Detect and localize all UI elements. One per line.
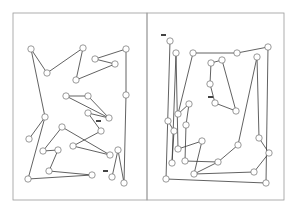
node xyxy=(28,46,34,52)
node xyxy=(186,101,192,107)
node xyxy=(73,77,79,83)
node xyxy=(199,138,205,144)
edge xyxy=(266,47,268,183)
node xyxy=(165,118,171,124)
edge xyxy=(49,171,92,175)
edge xyxy=(238,57,257,145)
node xyxy=(256,135,262,141)
node xyxy=(234,50,240,56)
edge xyxy=(185,125,186,161)
node xyxy=(106,115,112,121)
node xyxy=(70,143,76,149)
node xyxy=(25,176,31,182)
node xyxy=(219,57,225,63)
node xyxy=(42,114,48,120)
edge xyxy=(185,161,218,162)
panel-left xyxy=(13,13,147,200)
node xyxy=(215,159,221,165)
node xyxy=(167,38,173,44)
edge xyxy=(118,150,124,183)
node xyxy=(175,146,181,152)
edge xyxy=(222,60,236,111)
annotation-mark xyxy=(96,120,101,122)
edge xyxy=(73,131,101,146)
node xyxy=(265,44,271,50)
edge xyxy=(95,49,126,59)
node xyxy=(40,148,46,154)
node xyxy=(169,160,175,166)
node xyxy=(208,60,214,66)
edge xyxy=(194,172,254,174)
node xyxy=(44,70,50,76)
edge xyxy=(176,53,178,149)
node xyxy=(89,172,95,178)
node xyxy=(233,108,239,114)
annotation-mark xyxy=(103,170,108,172)
panel-frame xyxy=(13,13,147,200)
node xyxy=(123,92,129,98)
edge xyxy=(166,41,170,179)
node xyxy=(98,128,104,134)
node xyxy=(115,147,121,153)
node xyxy=(182,158,188,164)
edge xyxy=(166,179,266,183)
edge xyxy=(29,117,45,139)
node xyxy=(163,176,169,182)
node xyxy=(266,150,272,156)
node xyxy=(109,174,115,180)
node xyxy=(80,45,86,51)
edge xyxy=(88,96,109,118)
node xyxy=(26,136,32,142)
edge xyxy=(28,175,92,179)
node xyxy=(173,50,179,56)
edge xyxy=(218,145,238,162)
node xyxy=(112,61,118,67)
edge xyxy=(47,48,83,73)
node xyxy=(183,122,189,128)
node xyxy=(85,110,91,116)
node xyxy=(212,100,218,106)
panel-right xyxy=(147,13,284,200)
node xyxy=(235,142,241,148)
node xyxy=(121,180,127,186)
edge xyxy=(254,153,269,172)
node xyxy=(92,56,98,62)
edge xyxy=(76,64,115,80)
node xyxy=(63,93,69,99)
node xyxy=(207,81,213,87)
node xyxy=(55,147,61,153)
edge xyxy=(178,141,202,149)
node xyxy=(123,46,129,52)
node xyxy=(107,152,113,158)
node xyxy=(85,93,91,99)
node xyxy=(191,171,197,177)
graph-diagram xyxy=(0,0,294,220)
edge xyxy=(194,162,218,174)
node xyxy=(263,180,269,186)
node xyxy=(251,169,257,175)
node xyxy=(175,111,181,117)
annotation-mark xyxy=(208,96,213,98)
edge xyxy=(76,48,83,80)
node xyxy=(171,128,177,134)
edge xyxy=(194,141,202,174)
edge xyxy=(257,57,259,138)
edge xyxy=(73,146,110,155)
node xyxy=(190,50,196,56)
edge xyxy=(237,47,268,53)
edge xyxy=(172,53,176,163)
node xyxy=(59,124,65,130)
node xyxy=(254,54,260,60)
annotation-mark xyxy=(161,34,166,36)
edge xyxy=(124,95,126,183)
node xyxy=(46,168,52,174)
